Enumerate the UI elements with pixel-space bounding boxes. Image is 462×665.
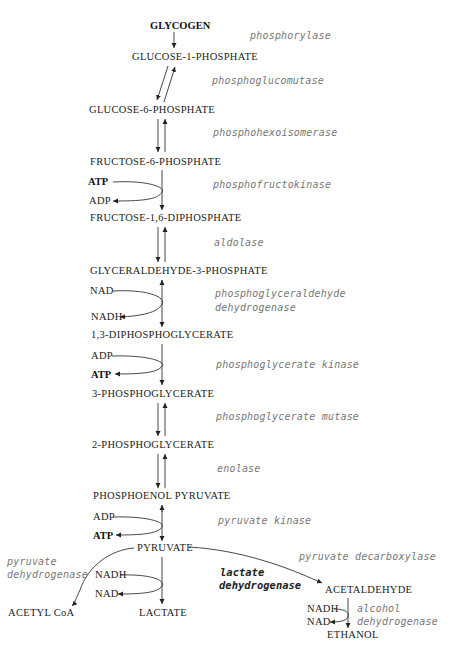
enzyme-ldh-line1: lactate — [220, 567, 264, 578]
enzyme-phosphoglycerate-kinase: phosphoglycerate kinase — [216, 360, 359, 370]
metabolite-2-phosphoglycerate: 2-PHOSPHOGLYCERATE — [92, 440, 214, 451]
enzyme-phosphoglycerate-mutase: phosphoglycerate mutase — [216, 412, 359, 422]
glycolysis-pathway-diagram: GLYCOGEN GLUCOSE-1-PHOSPHATE GLUCOSE-6-P… — [0, 0, 462, 665]
metabolite-fructose-1-6-diphosphate: FRUCTOSE-1,6-DIPHOSPHATE — [90, 213, 241, 224]
cofactor-atp-out-pk: ATP — [93, 531, 113, 542]
metabolite-fructose-6-phosphate: FRUCTOSE-6-PHOSPHATE — [90, 157, 221, 168]
metabolite-glucose-1-phosphate: GLUCOSE-1-PHOSPHATE — [132, 52, 258, 63]
enzyme-adh-line2: dehydrogenase — [357, 617, 438, 627]
cofactor-nadh-in-ldh: NADH — [95, 570, 127, 581]
cofactor-nadh-out: NADH — [91, 312, 123, 323]
enzyme-phosphofructokinase: phosphofructokinase — [213, 180, 331, 190]
cofactor-nad-out-adh: NAD — [307, 617, 331, 628]
metabolite-lactate: LACTATE — [139, 608, 187, 619]
metabolite-acetaldehyde: ACETALDEHYDE — [325, 585, 412, 596]
enzyme-adh-line1: alcohol — [357, 604, 401, 614]
cofactor-adp-out: ADP — [89, 196, 111, 207]
arrow-adp-atp — [112, 356, 163, 374]
metabolite-glycogen: GLYCOGEN — [150, 21, 210, 32]
metabolite-glyceraldehyde-3-phosphate: GLYCERALDEHYDE-3-PHOSPHATE — [90, 266, 268, 277]
enzyme-enolase: enolase — [217, 464, 261, 474]
enzyme-pyruvate-decarboxylase: pyruvate decarboxylase — [299, 552, 436, 562]
cofactor-adp-in: ADP — [91, 351, 113, 362]
metabolite-pyruvate: PYRUVATE — [137, 543, 193, 554]
arrow-atp-adp — [113, 182, 163, 201]
enzyme-pdh-line1: pyruvate — [7, 557, 57, 567]
metabolite-phosphoenol-pyruvate: PHOSPHOENOL PYRUVATE — [93, 491, 231, 502]
metabolite-ethanol: ETHANOL — [327, 630, 379, 641]
enzyme-ldh-line2: dehydrogenase — [219, 580, 301, 591]
enzyme-aldolase: aldolase — [214, 238, 264, 248]
enzyme-gapdh-line2: dehydrogenase — [215, 303, 296, 313]
enzyme-pyruvate-kinase: pyruvate kinase — [218, 516, 311, 526]
enzyme-pdh-line2: dehydrogenase — [7, 570, 88, 580]
cofactor-nadh-in-adh: NADH — [307, 604, 339, 615]
cofactor-atp-out: ATP — [91, 370, 111, 381]
metabolite-acetyl-coa: ACETYL CoA — [8, 608, 74, 619]
cofactor-nad-out-ldh: NAD — [95, 589, 119, 600]
metabolite-glucose-6-phosphate: GLUCOSE-6-PHOSPHATE — [89, 105, 215, 116]
cofactor-nad-in: NAD — [90, 286, 114, 297]
arrow-adp-atp-pk — [113, 517, 163, 535]
cofactor-adp-in-pk: ADP — [93, 512, 115, 523]
metabolite-1-3-diphosphoglycerate: 1,3-DIPHOSPHOGLYCERATE — [91, 330, 233, 341]
enzyme-phosphohexoisomerase: phosphohexoisomerase — [213, 128, 337, 138]
metabolite-3-phosphoglycerate: 3-PHOSPHOGLYCERATE — [92, 389, 214, 400]
cofactor-atp-in: ATP — [88, 177, 108, 188]
enzyme-phosphoglucomutase: phosphoglucomutase — [212, 76, 324, 86]
enzyme-phosphorylase: phosphorylase — [250, 31, 331, 41]
enzyme-gapdh-line1: phosphoglyceraldehyde — [215, 289, 346, 299]
